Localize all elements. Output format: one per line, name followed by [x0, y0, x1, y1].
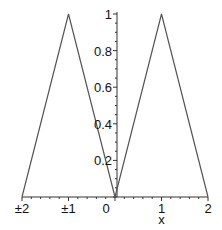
line-chart: ±2±10120.20.40.60.81x: [0, 0, 222, 230]
y-tick-label: 0.8: [94, 44, 112, 59]
y-tick-label: 0.6: [94, 80, 112, 95]
y-tick-label: 0.4: [94, 117, 112, 132]
y-tick-label: 1: [105, 7, 112, 22]
x-axis-title: x: [158, 212, 165, 227]
y-tick-label: 0.2: [94, 153, 112, 168]
axes: [22, 12, 208, 201]
x-tick-label: ±1: [61, 201, 75, 216]
x-tick-label: ±2: [15, 201, 29, 216]
plot-area: ±2±10120.20.40.60.81x: [0, 0, 222, 230]
x-tick-label: 2: [204, 201, 211, 216]
tick-labels: ±2±10120.20.40.60.81x: [15, 7, 212, 227]
x-tick-label: 0: [102, 201, 109, 216]
